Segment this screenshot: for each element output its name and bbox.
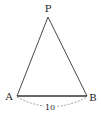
triangle-diagram: P A B 10 — [0, 0, 101, 118]
dimension-label: 10 — [45, 103, 55, 112]
vertex-label-p: P — [45, 3, 52, 14]
vertex-label-a: A — [4, 91, 13, 102]
edge-ap — [17, 17, 48, 96]
vertex-label-b: B — [89, 92, 96, 103]
edge-pb — [48, 17, 87, 96]
